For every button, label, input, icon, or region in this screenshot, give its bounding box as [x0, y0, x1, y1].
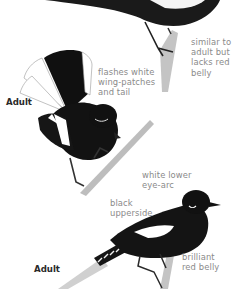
bottom-bird-heading: Adult	[34, 264, 60, 274]
belly-annotation: brilliant red belly	[182, 252, 219, 272]
top-bird-annotation: similar to adult but lacks red belly	[191, 37, 231, 78]
upperside-annotation: black upperside	[110, 198, 153, 218]
middle-bird-annotation: flashes white wing-patches and tail	[98, 67, 155, 98]
eye-arc-annotation: white lower eye-arc	[142, 170, 192, 190]
middle-bird-heading: Adult	[6, 97, 32, 107]
